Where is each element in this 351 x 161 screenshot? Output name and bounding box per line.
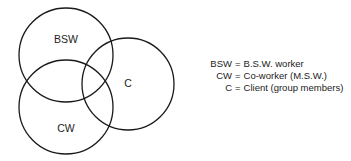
circle-cw [19,60,113,154]
legend-value: B.S.W. worker [244,58,304,70]
legend-value: Client (group members) [244,82,344,94]
legend: BSW=B.S.W. worker CW=Co-worker (M.S.W.) … [196,58,343,94]
legend-key: BSW [196,58,232,70]
label-c: C [124,77,132,89]
legend-separator: = [235,82,241,94]
legend-item-cw: CW=Co-worker (M.S.W.) [196,70,343,82]
legend-value: Co-worker (M.S.W.) [244,70,327,82]
legend-key: C [196,82,232,94]
legend-separator: = [235,58,241,70]
legend-item-c: C=Client (group members) [196,82,343,94]
circle-bsw [19,8,113,102]
legend-separator: = [235,70,241,82]
legend-item-bsw: BSW=B.S.W. worker [196,58,343,70]
label-bsw: BSW [54,33,78,45]
legend-key: CW [196,70,232,82]
label-cw: CW [57,122,75,134]
